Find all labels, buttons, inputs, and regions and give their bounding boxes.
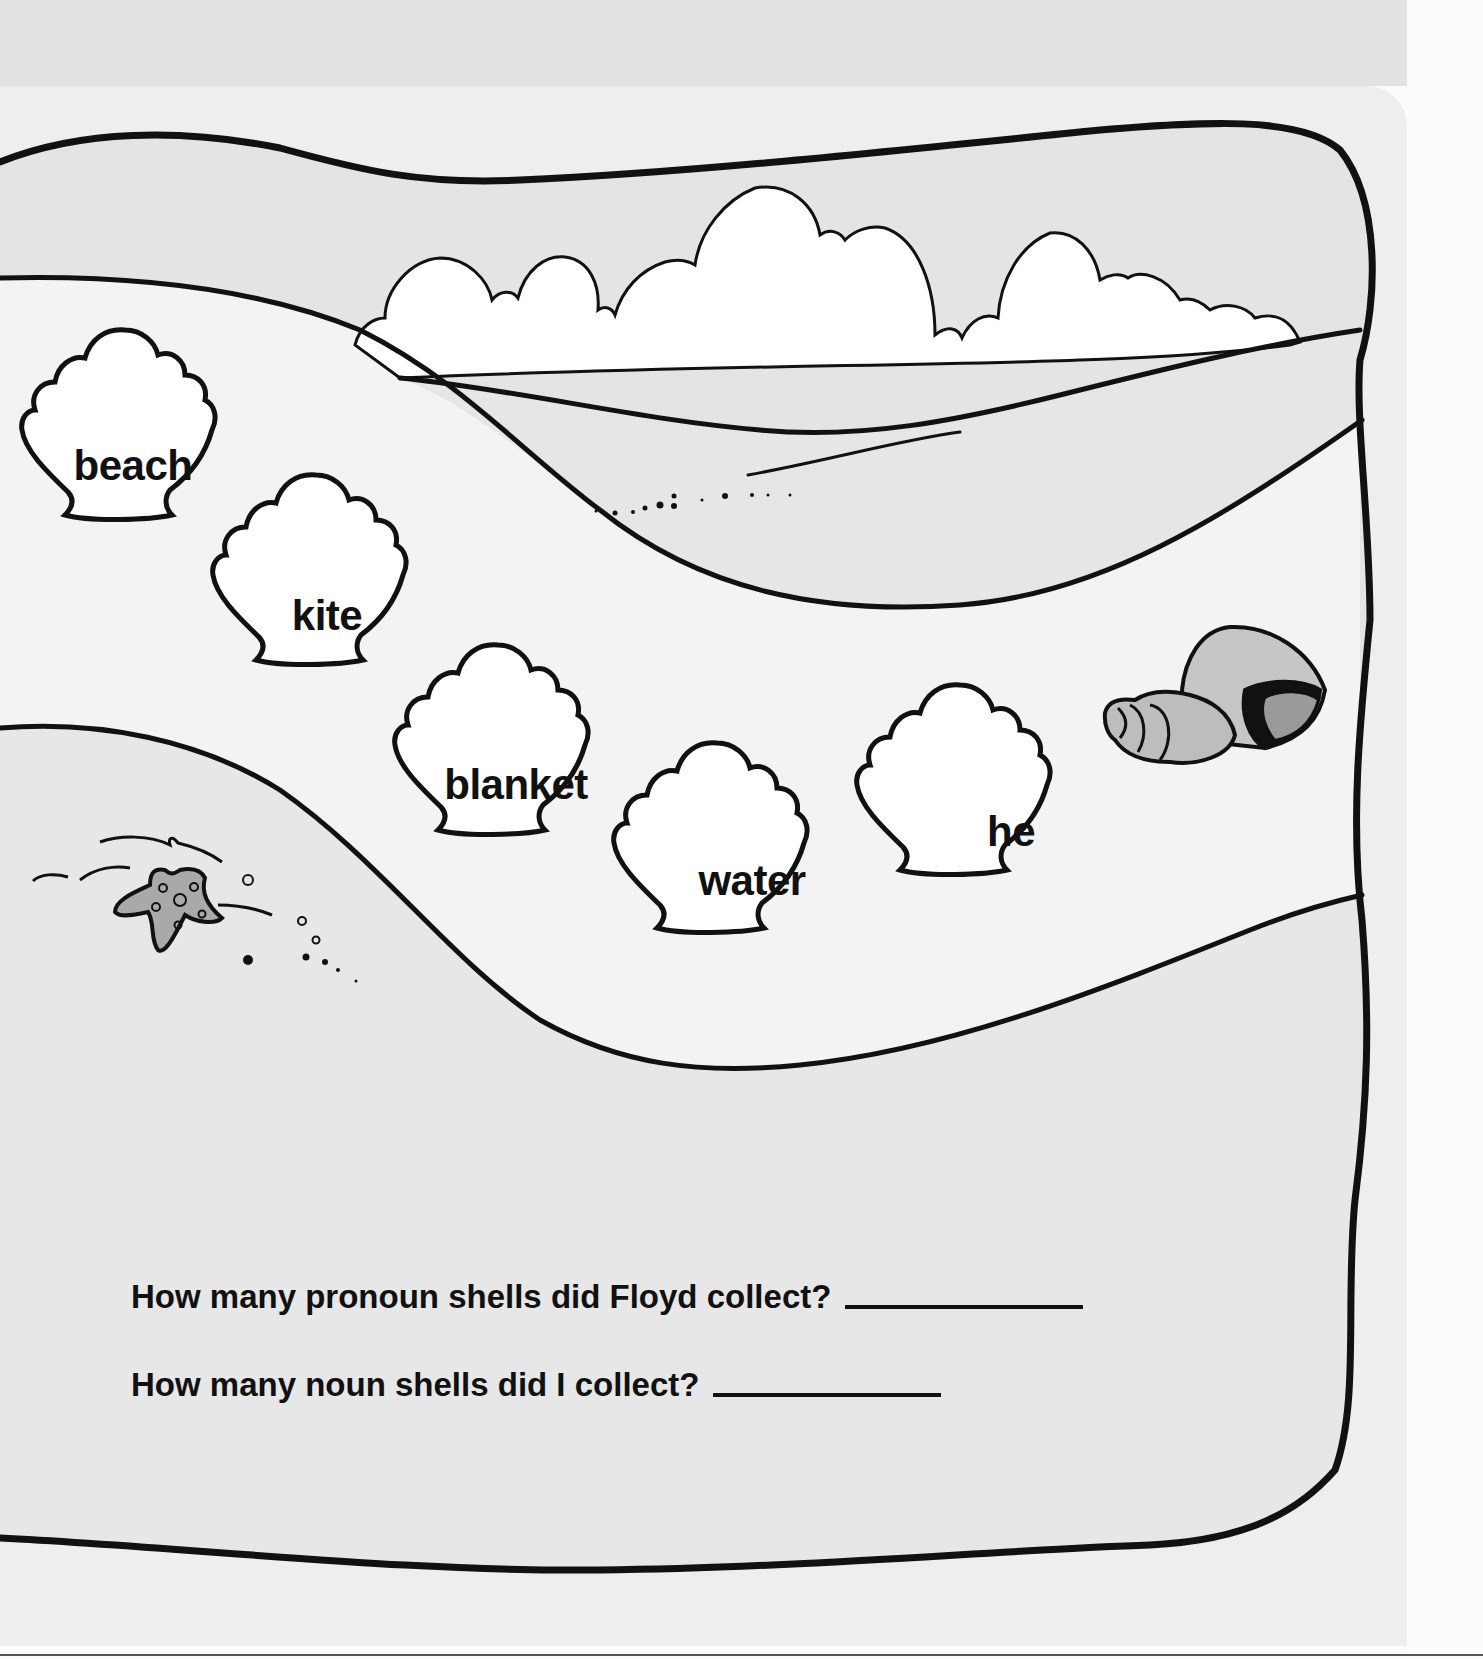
question-text: How many noun shells did I collect? bbox=[131, 1366, 699, 1404]
shell-word-kite[interactable]: kite bbox=[292, 592, 362, 640]
shell-word-blanket[interactable]: blanket bbox=[444, 761, 588, 809]
beach-scene bbox=[0, 0, 1483, 1659]
shell-word-he[interactable]: he bbox=[987, 808, 1035, 856]
question-text: How many pronoun shells did Floyd collec… bbox=[131, 1278, 831, 1316]
scan-bottom-rule bbox=[0, 1654, 1483, 1656]
answer-blank-nouns[interactable] bbox=[713, 1393, 941, 1397]
question-pronoun-shells: How many pronoun shells did Floyd collec… bbox=[131, 1278, 1083, 1316]
shell-word-beach[interactable]: beach bbox=[74, 442, 193, 490]
shell-word-water[interactable]: water bbox=[698, 857, 805, 905]
answer-blank-pronouns[interactable] bbox=[845, 1305, 1083, 1309]
question-noun-shells: How many noun shells did I collect? bbox=[131, 1366, 941, 1404]
